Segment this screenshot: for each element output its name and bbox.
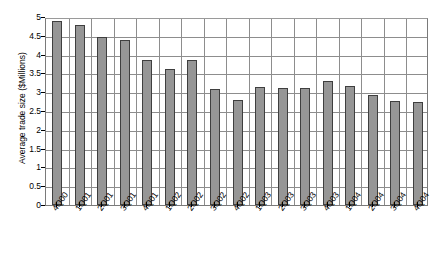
y-tick-label: 0.5 [1,182,41,190]
bar-series [46,19,427,205]
bar [165,69,175,205]
y-tick-label: 4 [1,51,41,59]
bar [278,88,288,205]
y-tick-label: 1 [1,163,41,171]
bar [233,100,243,205]
y-tick-label: 3.5 [1,69,41,77]
bar [300,88,310,205]
bar [413,102,423,205]
bar [210,89,220,205]
plot-area [45,18,428,206]
x-axis-ticks: 4Q001Q012Q013Q014Q011Q022Q023Q024Q021Q03… [45,207,428,253]
bar [323,81,333,205]
y-tick-label: 2 [1,126,41,134]
bar [52,21,62,205]
y-axis-ticks: 00.511.522.533.544.55 [0,18,41,206]
bar [142,60,152,205]
y-tick-label: 4.5 [1,32,41,40]
bar [75,25,85,205]
y-tick-label: 0 [1,201,41,209]
y-tick-label: 3 [1,88,41,96]
y-tick-label: 2.5 [1,107,41,115]
bar [120,40,130,205]
bar [97,37,107,205]
y-tick-label: 5 [1,13,41,21]
bar [255,87,265,205]
bar-chart: Average trade size ($Millions) 00.511.52… [0,0,441,253]
y-tick-label: 1.5 [1,145,41,153]
bar [345,86,355,205]
bar [187,60,197,206]
bar [368,95,378,205]
